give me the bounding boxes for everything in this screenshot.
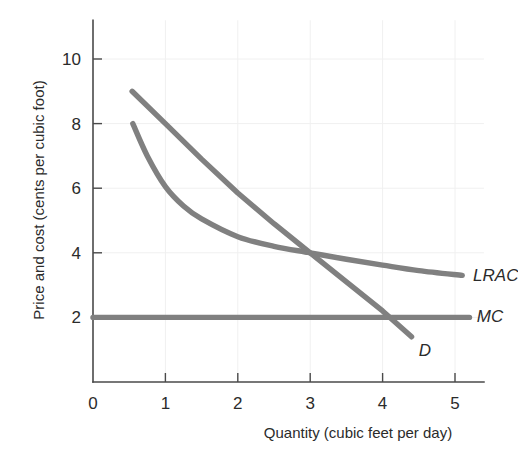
x-axis-title: Quantity (cubic feet per day): [264, 424, 452, 441]
curve-label-lrac: LRAC: [473, 266, 518, 285]
y-tick-label: 4: [72, 244, 81, 263]
y-tick-label: 6: [72, 179, 81, 198]
curve-label-mc: MC: [477, 307, 504, 326]
y-tick-label: 10: [62, 50, 81, 69]
x-tick-label: 5: [450, 394, 459, 413]
x-tick-label: 2: [233, 394, 242, 413]
y-axis-title: Price and cost (cents per cubic foot): [30, 80, 47, 319]
chart-figure: 246810012345 LRACMCD Quantity (cubic fee…: [0, 0, 518, 453]
y-tick-label: 2: [72, 308, 81, 327]
x-tick-label: 4: [378, 394, 387, 413]
curve-label-d: D: [419, 341, 431, 360]
economics-cost-curve-chart: 246810012345 LRACMCD Quantity (cubic fee…: [0, 0, 518, 453]
y-tick-label: 8: [72, 115, 81, 134]
x-tick-label: 1: [161, 394, 170, 413]
x-tick-label: 3: [305, 394, 314, 413]
x-tick-label: 0: [88, 394, 97, 413]
